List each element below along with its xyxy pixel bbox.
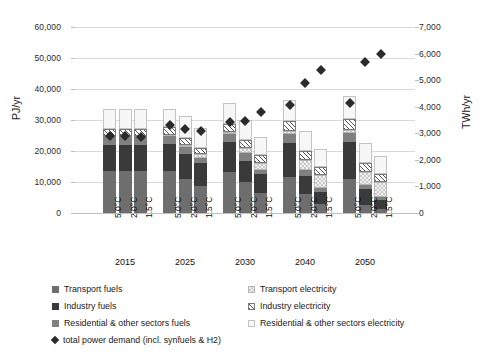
- bar-segment-if: [223, 142, 236, 172]
- x-scenario-label: 2.0°C: [369, 197, 379, 218]
- bar-segment-re: [359, 143, 372, 163]
- y-tick-label-left: 50,000: [34, 53, 61, 63]
- bar-segment-ie: [239, 140, 252, 148]
- bar-segment-ie: [283, 121, 296, 131]
- bar-segment-rf: [343, 133, 356, 142]
- y-tick-label-right: 5,000: [419, 75, 441, 85]
- legend-label: Industry fuels: [64, 302, 116, 311]
- total-power-demand-marker: [300, 78, 310, 88]
- gridline: [75, 27, 415, 28]
- y-tick-mark-right: [415, 160, 419, 161]
- y-tick-mark-right: [415, 186, 419, 187]
- legend-item[interactable]: Transport fuels: [52, 285, 122, 294]
- bar-segment-rf: [254, 170, 267, 174]
- x-scenario-label: 1.5°C: [384, 197, 394, 218]
- bar-segment-rf: [283, 134, 296, 143]
- x-scenario-label: 5.0°C: [113, 197, 123, 218]
- bar-segment-re: [134, 109, 147, 129]
- legend-label: Transport fuels: [64, 285, 122, 294]
- y-tick-mark-right: [415, 27, 419, 28]
- diamond-marker-icon: [51, 336, 59, 344]
- plot-area: [75, 27, 415, 213]
- bar-segment-te: [343, 130, 356, 134]
- gridline: [75, 89, 415, 90]
- bar-segment-rf: [299, 170, 312, 176]
- x-group-label: 2040: [283, 257, 327, 267]
- y-tick-label-right: 4,000: [419, 102, 441, 112]
- bar-segment-ie: [254, 155, 267, 162]
- bar-segment-te: [374, 182, 387, 197]
- x-scenario-label: 2.0°C: [129, 197, 139, 218]
- bar-segment-re: [119, 109, 132, 129]
- bar-segment-if: [254, 174, 267, 193]
- x-scenario-label: 2.0°C: [189, 197, 199, 218]
- bar-segment-if: [119, 145, 132, 171]
- bar-segment-ie: [179, 138, 192, 145]
- y-axis-title-right: TWh/yr: [460, 95, 472, 129]
- legend-swatch-ie-icon: [248, 303, 255, 310]
- legend-label: total power demand (incl. synfuels & H2): [63, 336, 221, 345]
- legend-swatch-te-icon: [248, 286, 255, 293]
- bar-segment-rf: [239, 153, 252, 161]
- x-scenario-label: 1.5°C: [264, 197, 274, 218]
- legend-item[interactable]: Transport electricity: [248, 285, 336, 294]
- y-tick-mark-right: [415, 213, 419, 214]
- bar-segment-re: [314, 149, 327, 167]
- y-tick-label-left: 20,000: [34, 146, 61, 156]
- bar-segment-if: [283, 143, 296, 178]
- bar-segment-te: [254, 163, 267, 170]
- y-tick-label-left: 60,000: [34, 22, 61, 32]
- bar-segment-te: [194, 154, 207, 158]
- bar-segment-te: [359, 172, 372, 185]
- x-scenario-label: 2.0°C: [249, 197, 259, 218]
- legend-item[interactable]: Residential & other sectors electricity: [248, 319, 404, 328]
- y-tick-label-right: 2,000: [419, 155, 441, 165]
- bar-segment-rf: [194, 158, 207, 163]
- x-scenario-label: 5.0°C: [173, 197, 183, 218]
- bar-segment-rf: [163, 136, 176, 144]
- legend-swatch-rf-icon: [52, 320, 59, 327]
- total-power-demand-marker: [316, 65, 326, 75]
- chart-container: PJ/yr TWh/yr 010,00020,00030,00040,00050…: [0, 0, 480, 354]
- total-power-demand-marker: [256, 107, 266, 117]
- bar-segment-ie: [359, 163, 372, 172]
- x-scenario-label: 1.5°C: [144, 197, 154, 218]
- bar-segment-ie: [314, 167, 327, 175]
- bar-segment-if: [343, 142, 356, 179]
- bar-segment-if: [179, 154, 192, 178]
- bar-segment-te: [283, 131, 296, 134]
- bar-segment-if: [134, 145, 147, 171]
- x-axis-line: [75, 213, 415, 214]
- bar-segment-if: [299, 176, 312, 195]
- legend-item[interactable]: total power demand (incl. synfuels & H2): [52, 336, 221, 345]
- legend-swatch-tf-icon: [52, 286, 59, 293]
- y-tick-mark-right: [415, 80, 419, 81]
- legend-label: Transport electricity: [260, 285, 336, 294]
- x-scenario-label: 2.0°C: [309, 197, 319, 218]
- bar-segment-re: [254, 137, 267, 155]
- bar-segment-if: [194, 163, 207, 186]
- y-tick-label-right: 0: [419, 208, 424, 218]
- bar-segment-ie: [299, 151, 312, 160]
- x-group-label: 2030: [223, 257, 267, 267]
- y-tick-label-right: 6,000: [419, 49, 441, 59]
- bar-segment-re: [299, 131, 312, 151]
- y-tick-label-left: 0: [56, 208, 61, 218]
- legend-label: Residential & other sectors fuels: [64, 319, 190, 328]
- bar-segment-if: [239, 161, 252, 182]
- bar-segment-if: [163, 144, 176, 172]
- bar-segment-te: [299, 160, 312, 169]
- bar-segment-te: [314, 175, 327, 187]
- bar-segment-ie: [194, 148, 207, 154]
- bar-segment-rf: [314, 188, 327, 192]
- x-group-label: 2050: [343, 257, 387, 267]
- bar-segment-te: [239, 148, 252, 153]
- x-group-label: 2025: [163, 257, 207, 267]
- stacked-bar: [343, 96, 356, 213]
- y-tick-mark-right: [415, 107, 419, 108]
- bar-segment-rf: [223, 134, 236, 142]
- legend-item[interactable]: Industry fuels: [52, 302, 116, 311]
- bar-segment-ie: [374, 174, 387, 182]
- legend-item[interactable]: Residential & other sectors fuels: [52, 319, 190, 328]
- legend-item[interactable]: Industry electricity: [248, 302, 330, 311]
